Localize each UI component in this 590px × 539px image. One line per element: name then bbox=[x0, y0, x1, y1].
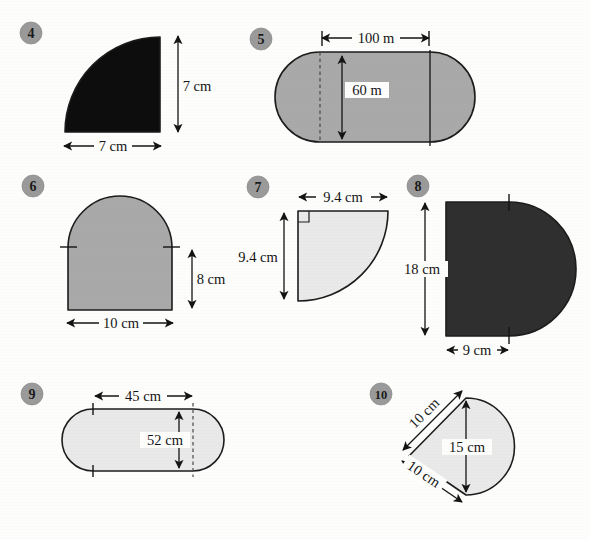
problem-7: 7 9.4 cm 9.4 cm bbox=[238, 176, 388, 301]
dimension-label-10-vertical: 15 cm bbox=[449, 439, 486, 455]
dimension-label-9-horizontal: 45 cm bbox=[125, 388, 162, 404]
problem-5: 5 100 m 60 m bbox=[250, 28, 475, 146]
shape-quarter-circle-4 bbox=[65, 37, 160, 132]
figures-canvas: 4 7 cm 7 cm 7 cm 5 100 bbox=[0, 0, 590, 539]
problem-number-label-9: 9 bbox=[29, 387, 36, 402]
problem-6: 6 8 cm 10 cm bbox=[22, 175, 226, 331]
worksheet-page: 4 7 cm 7 cm 7 cm 5 100 bbox=[0, 0, 590, 539]
dimension-label-7-horizontal: 9.4 cm bbox=[323, 189, 363, 205]
dimension-label-4-horizontal-text: 7 cm bbox=[99, 138, 128, 154]
problem-8: 8 18 cm 18 cm 9 cm bbox=[396, 175, 576, 358]
problem-number-label-5: 5 bbox=[258, 32, 265, 47]
dimension-label-6-horizontal: 10 cm bbox=[103, 315, 140, 331]
problem-number-label-4: 4 bbox=[28, 26, 35, 41]
shape-quarter-circle-7 bbox=[298, 211, 388, 301]
dimension-label-4-vertical: 7 cm bbox=[183, 78, 212, 94]
dimension-label-9-vertical: 52 cm bbox=[147, 432, 184, 448]
problem-number-label-6: 6 bbox=[30, 179, 37, 194]
shape-rect-semicircle-6 bbox=[68, 196, 172, 310]
dimension-label-5-horizontal: 100 m bbox=[358, 30, 395, 46]
dimension-label-8-horizontal: 9 cm bbox=[463, 342, 492, 358]
dimension-label-6-vertical: 8 cm bbox=[197, 271, 226, 287]
problem-number-label-8: 8 bbox=[415, 179, 422, 194]
shape-rect-semicircle-8 bbox=[446, 202, 576, 336]
problem-number-label-7: 7 bbox=[255, 180, 262, 195]
problem-9: 9 45 cm 52 cm bbox=[21, 383, 224, 477]
dimension-label-8-vertical-text: 18 cm bbox=[404, 261, 441, 277]
problem-10: 10 10 cm 10 cm 15 cm bbox=[370, 383, 515, 502]
dimension-label-5-vertical: 60 m bbox=[352, 82, 382, 98]
dimension-label-7-vertical: 9.4 cm bbox=[238, 249, 278, 265]
problem-4: 4 7 cm 7 cm 7 cm bbox=[20, 22, 212, 154]
problem-number-label-10: 10 bbox=[375, 388, 388, 402]
